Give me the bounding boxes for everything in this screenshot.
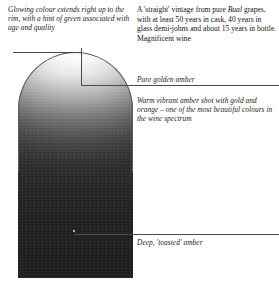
caption-rim-colour: Glowing colour extends right up to the r…	[8, 5, 130, 32]
caption-deep-toasted-amber: Deep, 'toasted' amber	[137, 238, 277, 247]
leader-line-deep-amber	[74, 234, 279, 235]
caption-pure-golden-amber: Pure golden amber	[137, 75, 277, 84]
caption-warm-vibrant-amber: Warm vibrant amber shot with gold and or…	[137, 96, 275, 123]
grape-variety-name: Bual	[228, 5, 242, 14]
vintage-text-lead: A 'straight' vintage from pure	[137, 5, 228, 14]
leader-line-rim-horizontal	[13, 52, 82, 53]
leader-line-rim-vertical	[81, 48, 82, 86]
leader-anchor-dot	[73, 230, 75, 232]
caption-vintage-description: A 'straight' vintage from pure Bual grap…	[137, 5, 277, 43]
leader-line-golden-amber	[81, 85, 279, 86]
